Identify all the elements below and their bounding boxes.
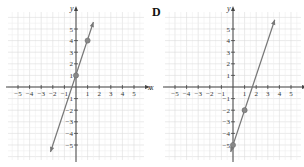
data-point xyxy=(73,73,78,78)
coordinate-plane-1: xy−5−4−3−2−11234554321−1−2−3−4−5 xyxy=(6,4,152,162)
x-tick-label: 3 xyxy=(109,90,113,98)
x-tick-label: 3 xyxy=(266,90,270,98)
y-tick-label: 2 xyxy=(70,60,74,68)
x-tick-label: −5 xyxy=(14,90,22,98)
y-tick-label: 3 xyxy=(227,49,231,57)
x-tick-label: −3 xyxy=(37,90,45,98)
y-tick-label: 4 xyxy=(227,37,231,45)
x-tick-label: 4 xyxy=(278,90,282,98)
x-tick-label: −2 xyxy=(49,90,57,98)
x-tick-label: −5 xyxy=(171,90,179,98)
y-tick-label: −2 xyxy=(66,107,74,115)
y-axis-label: y xyxy=(69,4,74,13)
y-tick-label: 4 xyxy=(70,37,74,45)
y-tick-label: 3 xyxy=(70,49,74,57)
x-axis-arrow-icon xyxy=(302,85,304,89)
line-arrow-up-icon xyxy=(90,22,94,27)
x-tick-label: −4 xyxy=(183,90,191,98)
y-tick-label: −4 xyxy=(223,130,231,138)
x-tick-label: 2 xyxy=(254,90,258,98)
x-tick-label: −3 xyxy=(194,90,202,98)
chart-canvas: xy−5−4−3−2−11234554321−1−2−3−4−5xy−5−4−3… xyxy=(0,0,304,167)
x-tick-label: 1 xyxy=(86,90,90,98)
y-tick-label: 1 xyxy=(227,72,231,80)
y-tick-label: −1 xyxy=(223,95,231,103)
y-axis-label: y xyxy=(226,4,231,13)
panel-label: D xyxy=(152,5,161,19)
y-tick-label: −5 xyxy=(66,142,74,150)
y-tick-label: −2 xyxy=(223,107,231,115)
y-tick-label: 2 xyxy=(227,60,231,68)
line-arrow-down-icon xyxy=(50,147,54,152)
y-tick-label: 5 xyxy=(70,26,74,34)
data-point xyxy=(230,142,235,147)
x-tick-label: −2 xyxy=(206,90,214,98)
data-point xyxy=(242,108,247,113)
x-tick-label: −4 xyxy=(26,90,34,98)
x-tick-label: 5 xyxy=(132,90,136,98)
x-tick-label: 1 xyxy=(243,90,247,98)
y-tick-label: −3 xyxy=(66,118,74,126)
y-tick-label: 5 xyxy=(227,26,231,34)
x-tick-label: 5 xyxy=(289,90,293,98)
y-tick-label: −4 xyxy=(66,130,74,138)
y-tick-label: −5 xyxy=(223,142,231,150)
y-tick-label: −3 xyxy=(223,118,231,126)
y-axis-arrow-icon xyxy=(231,6,235,11)
line-arrow-up-icon xyxy=(271,20,275,25)
x-tick-label: 2 xyxy=(97,90,101,98)
x-axis-label: x xyxy=(149,83,154,92)
x-tick-label: 4 xyxy=(121,90,125,98)
y-axis-arrow-icon xyxy=(74,6,78,11)
y-tick-label: 1 xyxy=(70,72,74,80)
coordinate-plane-2: xy−5−4−3−2−11234554321−1−2−3−4−5D xyxy=(149,4,304,162)
data-point xyxy=(85,38,90,43)
